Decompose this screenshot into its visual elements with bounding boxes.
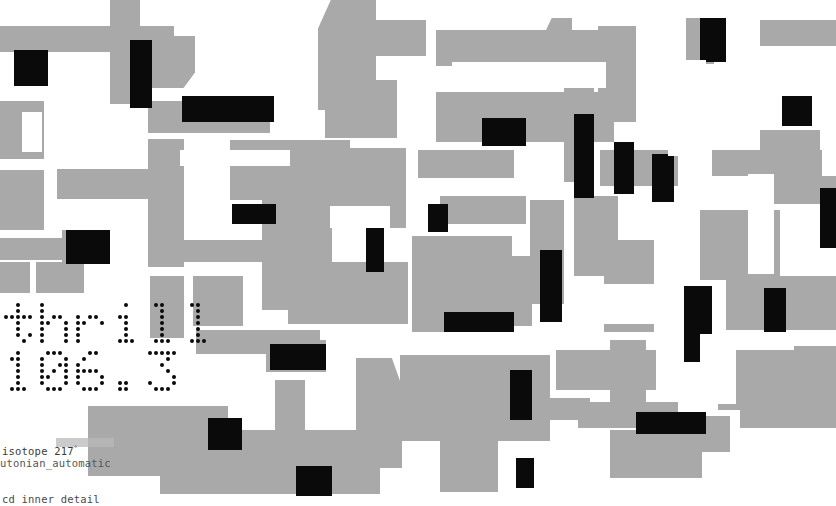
dot-matrix-pixel xyxy=(46,321,50,325)
dot-matrix-pixel xyxy=(70,333,74,337)
dot-matrix-pixel xyxy=(124,375,128,379)
black-block xyxy=(270,344,326,370)
dot-matrix-pixel xyxy=(76,333,80,337)
dot-matrix-pixel xyxy=(40,369,44,373)
dot-matrix-pixel xyxy=(154,369,158,373)
dot-matrix-pixel xyxy=(94,321,98,325)
dot-matrix-pixel xyxy=(136,303,140,307)
dot-matrix-pixel xyxy=(148,339,152,343)
gray-block xyxy=(356,358,402,468)
dot-matrix-pixel xyxy=(40,315,44,319)
dot-matrix-pixel xyxy=(88,387,92,391)
dot-matrix-pixel xyxy=(58,375,62,379)
dot-matrix-pixel xyxy=(142,309,146,313)
dot-matrix-pixel xyxy=(124,357,128,361)
dot-matrix-pixel xyxy=(76,309,80,313)
dot-matrix-pixel xyxy=(64,357,68,361)
dot-matrix-pixel xyxy=(34,327,38,331)
dot-matrix-pixel xyxy=(130,363,134,367)
dot-matrix-pixel xyxy=(10,369,14,373)
dot-matrix-pixel xyxy=(184,327,188,331)
dot-matrix-pixel xyxy=(40,333,44,337)
dot-matrix-pixel xyxy=(16,333,20,337)
dot-matrix-pixel xyxy=(130,315,134,319)
dot-matrix-pixel xyxy=(178,339,182,343)
dot-matrix-pixel xyxy=(22,369,26,373)
dot-matrix-pixel xyxy=(196,333,200,337)
black-block xyxy=(820,188,836,248)
dot-matrix-pixel xyxy=(202,303,206,307)
dot-matrix-pixel xyxy=(154,315,158,319)
dot-matrix-pixel xyxy=(118,327,122,331)
dot-matrix-pixel xyxy=(118,339,122,343)
dot-matrix-pixel xyxy=(82,339,86,343)
dot-matrix-pixel xyxy=(4,375,8,379)
dot-matrix-pixel xyxy=(124,387,128,391)
dot-matrix-pixel xyxy=(142,327,146,331)
dot-matrix-pixel xyxy=(64,315,68,319)
dot-matrix-pixel xyxy=(70,375,74,379)
dot-matrix-pixel xyxy=(34,303,38,307)
dot-matrix-pixel xyxy=(154,333,158,337)
dot-matrix-pixel xyxy=(172,333,176,337)
dot-matrix-pixel xyxy=(196,321,200,325)
dot-matrix-pixel xyxy=(142,315,146,319)
dot-matrix-pixel xyxy=(76,315,80,319)
dot-matrix-pixel xyxy=(172,303,176,307)
dot-matrix-pixel xyxy=(88,375,92,379)
dot-matrix-pixel xyxy=(22,333,26,337)
dot-matrix-pixel xyxy=(52,333,56,337)
dot-matrix-pixel xyxy=(22,309,26,313)
dot-matrix-pixel xyxy=(202,321,206,325)
dot-matrix-pixel xyxy=(16,369,20,373)
dot-matrix-pixel xyxy=(22,357,26,361)
dot-matrix-pixel xyxy=(40,321,44,325)
dot-matrix-pixel xyxy=(112,375,116,379)
dot-matrix-pixel xyxy=(160,333,164,337)
dot-matrix-pixel xyxy=(52,309,56,313)
dot-matrix-pixel xyxy=(82,303,86,307)
dot-matrix-pixel xyxy=(40,381,44,385)
dot-matrix-pixel xyxy=(214,327,218,331)
dot-matrix-pixel xyxy=(52,363,56,367)
dot-matrix-pixel xyxy=(148,351,152,355)
dot-matrix-pixel xyxy=(136,327,140,331)
dot-matrix-pixel xyxy=(136,381,140,385)
dot-matrix-pixel xyxy=(34,351,38,355)
dot-matrix-pixel xyxy=(76,303,80,307)
dot-matrix-pixel xyxy=(130,309,134,313)
black-block xyxy=(232,204,276,224)
dot-matrix-pixel xyxy=(88,309,92,313)
dot-matrix-pixel xyxy=(130,333,134,337)
dot-matrix-pixel xyxy=(4,357,8,361)
dot-matrix-pixel xyxy=(190,333,194,337)
dot-matrix-pixel xyxy=(40,363,44,367)
dot-matrix-pixel xyxy=(46,333,50,337)
dot-matrix-pixel xyxy=(76,351,80,355)
dot-matrix-pixel xyxy=(100,363,104,367)
dot-matrix-pixel xyxy=(58,327,62,331)
dot-matrix-pixel xyxy=(22,321,26,325)
dot-matrix-pixel xyxy=(184,333,188,337)
dot-matrix-pixel xyxy=(94,381,98,385)
dot-matrix-pixel xyxy=(76,357,80,361)
dot-matrix-pixel xyxy=(124,351,128,355)
dot-matrix-pixel xyxy=(10,309,14,313)
dot-matrix-pixel xyxy=(184,339,188,343)
dot-matrix-pixel xyxy=(34,321,38,325)
black-block xyxy=(428,204,448,232)
dot-matrix-pixel xyxy=(64,309,68,313)
gray-block xyxy=(330,20,426,56)
dot-matrix-pixel xyxy=(208,327,212,331)
dot-matrix-pixel xyxy=(4,369,8,373)
dot-matrix-pixel xyxy=(196,309,200,313)
dot-matrix-pixel xyxy=(202,333,206,337)
black-block xyxy=(130,40,152,108)
dot-matrix-pixel xyxy=(58,321,62,325)
dot-matrix-pixel xyxy=(172,357,176,361)
dot-matrix-pixel xyxy=(58,369,62,373)
dot-matrix-pixel xyxy=(46,369,50,373)
dot-matrix-pixel xyxy=(172,327,176,331)
dot-matrix-pixel xyxy=(142,321,146,325)
dot-matrix-pixel xyxy=(40,327,44,331)
